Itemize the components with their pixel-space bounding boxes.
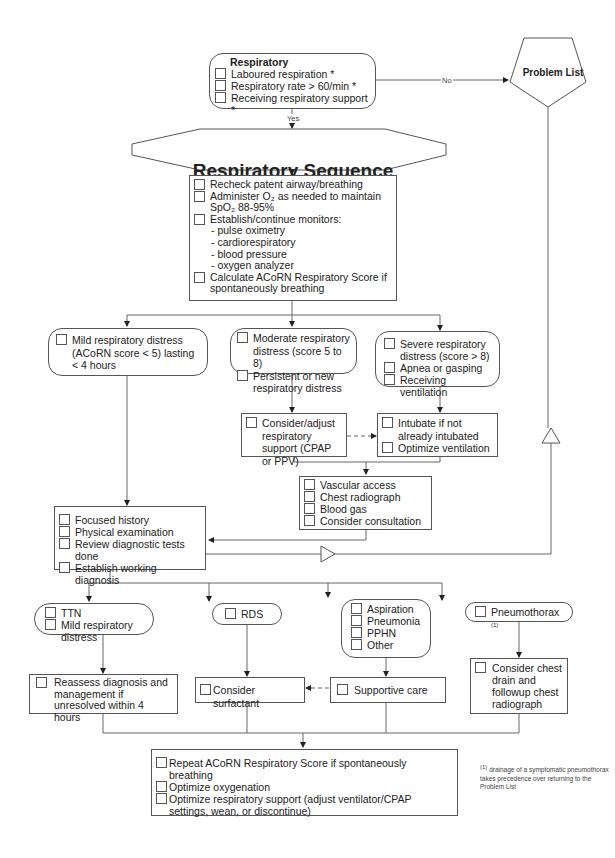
checkbox[interactable] (215, 92, 226, 103)
review-tests-text: Review diagnostic tests done (75, 538, 201, 562)
checkbox[interactable] (246, 417, 257, 428)
action-administer-o2: Administer O₂ as needed to maintain SpO₂… (210, 191, 392, 214)
checkbox[interactable] (384, 374, 395, 385)
checkbox[interactable] (304, 479, 315, 490)
rds-box: RDS (212, 603, 282, 625)
checkbox[interactable] (156, 793, 167, 804)
initial-actions-box: Recheck patent airway/breathing Administ… (189, 175, 397, 301)
checkbox[interactable] (351, 639, 362, 650)
checkbox[interactable] (237, 370, 248, 381)
other-text: Other (367, 639, 421, 651)
working-diagnosis-text: Establish working diagnosis (75, 562, 201, 586)
severe-distress-text: Severe respiratory distress (score > 8) (400, 338, 491, 362)
mild-distress-text: Mild respiratory distress (ACoRN score <… (72, 334, 200, 372)
adjust-support-box: Consider/adjust respiratory support (CPA… (241, 413, 347, 457)
intubate-box: Intubate if not already intubated Optimi… (377, 413, 498, 457)
ttn-box: TTN Mild respiratory distress (34, 603, 154, 635)
return-arrow-right (321, 546, 335, 562)
checkbox[interactable] (156, 781, 167, 792)
surfactant-text: Consider surfactant (213, 684, 300, 709)
checkbox[interactable] (225, 608, 236, 619)
checkbox[interactable] (59, 514, 70, 525)
focused-history-text: Focused history (75, 514, 201, 526)
checkbox[interactable] (215, 68, 226, 79)
monitor-cardiorespiratory: - cardiorespiratory (194, 237, 392, 249)
checkbox[interactable] (304, 503, 315, 514)
checkbox[interactable] (304, 515, 315, 526)
chest-drain-text: Consider chest drain and followup chest … (492, 662, 563, 710)
mild-distress-box: Mild respiratory distress (ACoRN score <… (48, 328, 208, 376)
chest-radiograph-text: Chest radiograph (320, 491, 427, 503)
checkbox[interactable] (56, 334, 67, 345)
diagnosis-steps-box: Focused history Physical examination Rev… (54, 506, 206, 570)
checkbox[interactable] (194, 179, 205, 190)
adjust-support-text: Consider/adjust respiratory support (CPA… (262, 417, 342, 467)
checkbox[interactable] (194, 214, 205, 225)
pphn-text: PPHN (367, 627, 421, 639)
respiratory-heading: Respiratory (215, 56, 370, 68)
moderate-distress-text: Moderate respiratory distress (score 5 t… (253, 332, 350, 370)
chest-drain-box: Consider chest drain and followup chest … (470, 658, 568, 714)
reassess-box: Reassess diagnosis and management if unr… (29, 674, 178, 714)
checkbox[interactable] (351, 603, 362, 614)
checkbox[interactable] (351, 627, 362, 638)
persistent-distress-text: Persistent or new respiratory distress (253, 370, 350, 395)
action-acorn-score: Calculate ACoRN Respiratory Score if spo… (210, 272, 392, 295)
checkbox[interactable] (382, 417, 393, 428)
checkbox[interactable] (304, 491, 315, 502)
pneumonia-text: Pneumonia (367, 615, 421, 627)
apnea-text: Apnea or gasping (400, 362, 491, 374)
checkbox[interactable] (337, 684, 348, 695)
checkbox[interactable] (194, 272, 205, 283)
checkbox[interactable] (59, 538, 70, 549)
pneumothorax-text: Pneumothorax (491, 606, 559, 618)
checkbox[interactable] (215, 80, 226, 91)
checkbox[interactable] (351, 615, 362, 626)
consider-consultation-text: Consider consultation (320, 515, 427, 527)
footnote-marker: (1) (491, 622, 498, 628)
reassess-text: Reassess diagnosis and management if unr… (54, 677, 171, 723)
checkbox[interactable] (384, 362, 395, 373)
criterion-laboured: Laboured respiration * (231, 68, 370, 80)
footnote: (1) drainage of a symptomatic pneumothor… (480, 763, 610, 792)
pneumothorax-box: Pneumothorax (1) (465, 602, 573, 622)
problem-list-node[interactable]: Problem List (503, 67, 603, 78)
checkbox[interactable] (45, 607, 56, 618)
receiving-ventilation-text: Receiving ventilation (400, 374, 491, 398)
checkbox[interactable] (200, 684, 211, 695)
final-actions-box: Repeat ACoRN Respiratory Score if sponta… (151, 749, 458, 816)
checkbox[interactable] (36, 677, 47, 688)
surfactant-box: Consider surfactant (195, 677, 305, 703)
checkbox[interactable] (59, 526, 70, 537)
respiratory-criteria-box: Respiratory Laboured respiration * Respi… (209, 53, 376, 109)
optimize-oxygenation-text: Optimize oxygenation (169, 781, 453, 793)
checkbox[interactable] (237, 332, 248, 343)
monitor-oxygen-analyzer: - oxygen analyzer (194, 260, 392, 272)
checkbox[interactable] (156, 757, 167, 768)
blood-gas-text: Blood gas (320, 503, 427, 515)
supportive-care-box: Supportive care (330, 677, 446, 703)
repeat-score-text: Repeat ACoRN Respiratory Score if sponta… (169, 757, 453, 781)
no-label: No (441, 76, 453, 85)
footnote-mark: (1) (480, 764, 487, 770)
other-diagnoses-box: Aspiration Pneumonia PPHN Other (341, 599, 431, 658)
optimize-ventilation-text: Optimize ventilation (398, 442, 493, 455)
checkbox[interactable] (382, 442, 393, 453)
moderate-distress-box: Moderate respiratory distress (score 5 t… (230, 328, 357, 374)
return-arrow-up (542, 428, 560, 443)
checkbox[interactable] (59, 562, 70, 573)
supportive-care-text: Supportive care (354, 684, 439, 697)
checkbox[interactable] (194, 191, 205, 202)
optimize-support-text: Optimize respiratory support (adjust ven… (169, 793, 453, 817)
checkbox[interactable] (475, 662, 486, 673)
checkbox[interactable] (384, 338, 395, 349)
aspiration-text: Aspiration (367, 603, 421, 615)
checkbox[interactable] (45, 619, 56, 630)
checkbox[interactable] (475, 606, 486, 617)
footnote-text: drainage of a symptomatic pneumothorax t… (480, 766, 609, 790)
criterion-support: Receiving respiratory support * (231, 92, 370, 116)
vascular-access-text: Vascular access (320, 479, 427, 491)
physical-exam-text: Physical examination (75, 526, 201, 538)
criterion-rate: Respiratory rate > 60/min * (231, 80, 370, 92)
investigations-box: Vascular access Chest radiograph Blood g… (299, 476, 432, 530)
